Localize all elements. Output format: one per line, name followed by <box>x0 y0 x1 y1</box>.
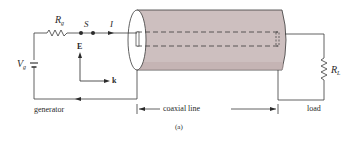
generator-label: generator <box>34 106 64 114</box>
propagation-direction-label: k <box>112 77 116 85</box>
figure-caption: (a) <box>175 124 183 131</box>
e-field-arrow-icon <box>78 52 82 58</box>
source-voltage-label: Vg <box>17 59 26 70</box>
dimension-right-arrow-icon <box>270 107 276 111</box>
inner-conductor-left-end <box>136 32 139 46</box>
switch-label: S <box>84 20 89 29</box>
resistor-rl <box>321 58 327 80</box>
resistor-rg <box>47 30 69 36</box>
electric-field-label: E <box>77 43 82 51</box>
coaxial-line-dimension <box>137 104 278 114</box>
current-arrow-icon <box>108 31 114 35</box>
switch-contact-left <box>79 31 83 35</box>
coaxial-cylinder <box>128 10 286 70</box>
coaxial-line-label: coaxial line <box>163 105 200 113</box>
switch-contact-right <box>91 31 95 35</box>
load-resistance-label: RL <box>331 65 340 76</box>
load-label: load <box>307 105 321 113</box>
return-current-arrow-icon <box>75 97 81 101</box>
k-direction-arrow-icon <box>104 79 110 83</box>
field-axes <box>80 56 106 81</box>
current-label: I <box>110 20 113 29</box>
coaxial-line-circuit-diagram: Rg S I Vg E k RL generator coaxial line … <box>0 0 361 145</box>
dimension-left-arrow-icon <box>139 107 145 111</box>
source-resistance-label: Rg <box>55 15 64 26</box>
